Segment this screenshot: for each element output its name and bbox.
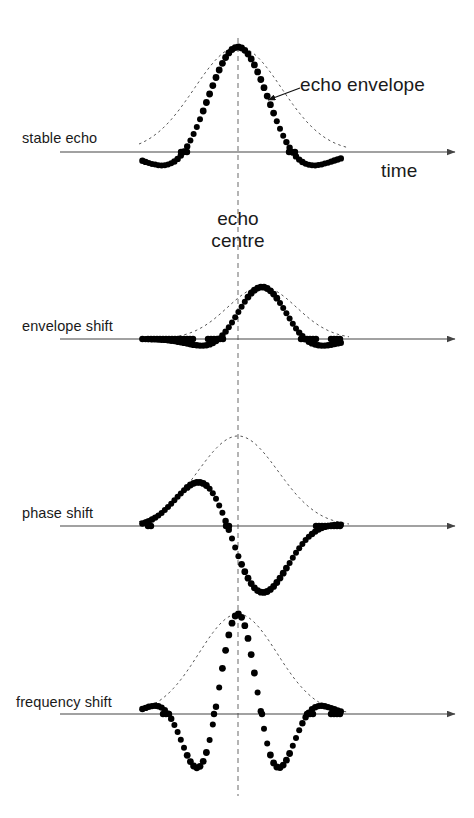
echo-baseline-dot <box>148 523 154 529</box>
echo-dots-frequency-shift <box>139 611 344 772</box>
echo-sample-dot <box>290 743 296 749</box>
echo-sample-dot <box>184 143 190 149</box>
echo-sample-dot <box>216 685 222 691</box>
echo-sample-dot <box>206 91 213 98</box>
echo-envelope-curve-stable-echo <box>139 47 349 148</box>
echo-sample-dot <box>270 110 277 117</box>
echo-sample-dot <box>232 314 238 320</box>
echo-baseline-dot <box>337 336 343 342</box>
echo-sample-dot <box>210 722 216 728</box>
echo-sample-dot <box>296 727 302 733</box>
panel-frequency-shift <box>60 611 455 772</box>
echo-baseline-dot <box>220 336 226 342</box>
echo-baseline-dot <box>313 336 319 342</box>
echo-sample-dot <box>277 126 283 132</box>
echo-baseline-dot <box>226 523 232 529</box>
echo-sample-dot <box>229 536 235 542</box>
echo-sample-dot <box>283 757 290 764</box>
panel-label-phase-shift: phase shift <box>22 505 93 521</box>
echo-sample-dot <box>235 309 241 315</box>
echo-envelope-callout-label: echo envelope <box>300 74 425 96</box>
echo-sample-dot <box>280 305 286 311</box>
echo-sample-dot <box>267 752 274 759</box>
panel-label-stable-echo: stable echo <box>22 130 97 146</box>
echo-sample-dot <box>213 704 219 710</box>
echo-baseline-dot <box>337 523 343 529</box>
echo-baseline-dot <box>166 711 172 717</box>
echo-sample-dot <box>239 304 245 310</box>
echo-envelope-curve-envelope-shift <box>139 287 349 339</box>
echo-sample-dot <box>264 741 270 747</box>
echo-sample-dot <box>222 647 229 654</box>
echo-sample-dot <box>274 118 280 124</box>
echo-sample-dot <box>290 555 296 561</box>
echo-envelope-callout-arrow <box>268 88 300 100</box>
echo-sample-dot <box>251 62 258 69</box>
echo-baseline-dot <box>211 711 217 717</box>
echo-sample-dot <box>191 131 197 137</box>
echo-sample-dot <box>225 632 232 639</box>
echo-sample-dot <box>264 93 271 100</box>
echo-baseline-dot <box>310 711 316 717</box>
echo-dots-phase-shift <box>139 479 344 596</box>
echo-sample-dot <box>283 310 289 316</box>
echo-sample-dot <box>293 735 299 741</box>
echo-envelope-curve-phase-shift <box>139 436 349 524</box>
echo-sample-dot <box>219 60 226 67</box>
echo-sample-dot <box>187 138 193 144</box>
echo-sample-dot <box>216 502 222 508</box>
echo-sample-dot <box>232 545 238 551</box>
echo-sample-dot <box>209 82 216 89</box>
echo-sample-dot <box>197 116 203 122</box>
echo-sample-dot <box>286 750 293 757</box>
echo-sample-dot <box>248 56 255 63</box>
panel-label-envelope-shift: envelope shift <box>22 318 113 334</box>
echo-sample-dot <box>238 614 245 621</box>
echo-centre-label-line1: echo <box>188 208 288 230</box>
echo-sample-dot <box>207 737 213 743</box>
echo-sample-dot <box>283 139 289 145</box>
echo-sample-dot <box>235 553 241 559</box>
echo-sample-dot <box>213 74 220 81</box>
echo-sample-dot <box>261 726 267 732</box>
echo-sample-dot <box>248 651 255 658</box>
echo-sample-dot <box>229 620 236 627</box>
echo-sample-dot <box>257 76 264 83</box>
echo-sample-dot <box>184 752 191 759</box>
echo-sample-dot <box>200 108 207 115</box>
echo-centre-label-line2: centre <box>188 230 288 252</box>
echo-sample-dot <box>254 69 261 76</box>
panel-phase-shift <box>60 436 455 596</box>
echo-sample-dot <box>178 737 184 743</box>
echo-sample-dot <box>241 568 248 575</box>
echo-sample-dot <box>277 300 283 306</box>
echo-sample-dot <box>203 99 210 106</box>
echo-sample-dot <box>245 635 252 642</box>
echo-sample-dot <box>267 101 274 108</box>
echo-sample-dot <box>200 758 207 765</box>
echo-sample-dot <box>175 729 181 735</box>
panel-stable-echo <box>60 44 455 169</box>
echo-baseline-dot <box>292 149 298 155</box>
echo-sample-dot <box>181 745 187 751</box>
echo-baseline-dot <box>259 711 265 717</box>
echo-sample-dot <box>194 124 200 130</box>
time-axis-label: time <box>381 160 417 182</box>
echo-sample-dot <box>203 749 210 756</box>
echo-sample-dot <box>287 560 293 566</box>
echo-baseline-dot <box>184 149 190 155</box>
echo-sample-dot <box>287 316 293 322</box>
panel-label-frequency-shift: frequency shift <box>16 694 112 710</box>
echo-centre-label: echo centre <box>188 208 288 253</box>
echo-sample-dot <box>219 665 226 672</box>
echo-sample-dot <box>241 622 248 629</box>
panel-envelope-shift <box>60 284 455 349</box>
echo-sample-dot <box>171 722 177 728</box>
echo-sample-dot <box>299 720 305 726</box>
echo-sample-dot <box>216 67 223 74</box>
echo-sample-dot <box>261 84 268 91</box>
echo-sample-dot <box>213 496 219 502</box>
echo-baseline-dot <box>190 336 196 342</box>
echo-sample-dot <box>280 133 286 139</box>
echo-sample-dot <box>338 155 344 161</box>
